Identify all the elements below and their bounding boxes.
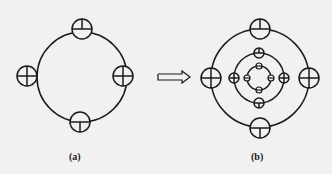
- outer-marker-left-icon: [201, 68, 221, 88]
- panel-a-diagram: [17, 19, 133, 132]
- outer-ring: [211, 29, 309, 127]
- outer-marker-right-icon: [299, 68, 319, 88]
- inner-marker-bottom-icon: [256, 87, 262, 93]
- middle-ring: [234, 53, 284, 103]
- middle-marker-right-icon: [279, 73, 289, 83]
- middle-marker-left-icon: [229, 73, 239, 83]
- marker-top-icon: [72, 19, 92, 39]
- inner-marker-left-icon: [244, 75, 250, 81]
- diagram-canvas: [0, 0, 332, 174]
- marker-right-icon: [113, 66, 133, 86]
- right-arrow-icon: [158, 71, 190, 83]
- middle-marker-top-icon: [254, 48, 264, 58]
- panel-b-diagram: [201, 19, 319, 138]
- marker-bottom-icon: [70, 112, 90, 132]
- outer-marker-top-icon: [250, 19, 270, 39]
- middle-marker-bottom-icon: [254, 98, 264, 108]
- inner-marker-right-icon: [268, 75, 274, 81]
- inner-marker-top-icon: [256, 63, 262, 69]
- marker-left-icon: [17, 66, 37, 86]
- caption-a: (a): [69, 151, 81, 162]
- outer-marker-bottom-icon: [250, 118, 270, 138]
- caption-b: (b): [251, 151, 263, 162]
